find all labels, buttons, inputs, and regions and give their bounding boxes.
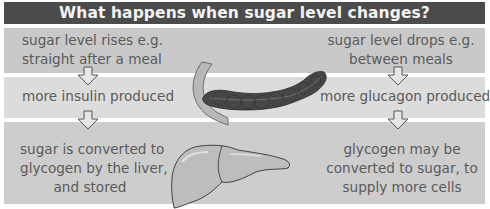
- left-step2-text: more insulin produced: [22, 87, 174, 106]
- left-step3-text: sugar is converted to glycogen by the li…: [20, 140, 160, 197]
- right-step1-text: sugar level drops e.g. between meals: [326, 31, 476, 69]
- liver-illustration: [170, 138, 295, 209]
- arrow-down-icon: [77, 110, 99, 130]
- pancreas-illustration: [200, 68, 330, 116]
- arrow-down-icon: [387, 110, 409, 130]
- arrow-down-icon: [77, 66, 99, 86]
- right-step3-text: glycogen may be converted to sugar, to s…: [322, 140, 482, 197]
- right-step2-text: more glucagon produced: [320, 87, 490, 106]
- left-step1-text: sugar level rises e.g. straight after a …: [22, 31, 162, 69]
- arrow-down-icon: [387, 66, 409, 86]
- diagram-title: What happens when sugar level changes?: [4, 2, 485, 24]
